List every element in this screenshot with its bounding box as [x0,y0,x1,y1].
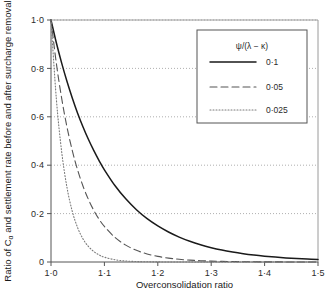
legend: ψ/(λ − κ) 0·10·050·025 [197,30,307,123]
y-tick-label: 1·0 [31,15,44,25]
y-tick-label: 0 [39,257,44,267]
y-tick-label: 0·8 [31,64,44,74]
x-tick-label: 1·2 [151,268,164,278]
x-tick-label: 1·1 [98,268,111,278]
y-axis-title: Ratio of Cα and settlement rate before a… [2,0,14,281]
legend-label-0: 0·1 [266,57,279,67]
x-tick-label: 1·3 [205,268,218,278]
figure-container: 00·20·40·60·81·01·01·11·21·31·41·5 Overc… [0,0,336,303]
x-axis-title: Overconsolidation ratio [136,279,233,290]
x-tick-label: 1·0 [44,268,57,278]
legend-label-1: 0·05 [266,82,283,92]
legend-title: ψ/(λ − κ) [236,41,268,51]
x-tick-label: 1·5 [311,268,324,278]
y-tick-label: 0·6 [31,112,44,122]
y-tick-label: 0·2 [31,209,44,219]
legend-label-2: 0·025 [266,105,288,115]
y-tick-label: 0·4 [31,160,44,170]
x-tick-label: 1·4 [258,268,271,278]
chart-canvas: 00·20·40·60·81·01·01·11·21·31·41·5 Overc… [0,0,336,303]
